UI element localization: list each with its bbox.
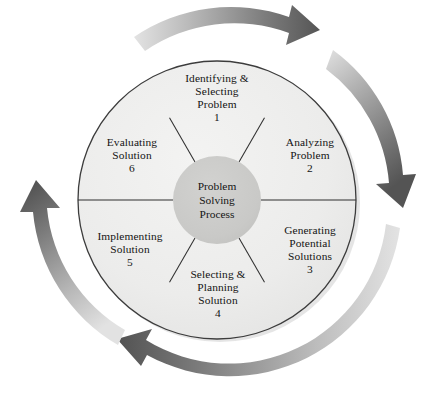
segment-number: 5 [84,256,176,269]
segment-line: Problem [166,98,268,111]
segment-line: Problem [268,149,352,162]
hub-line: Solving [175,194,259,208]
hub-line: Problem [175,180,259,194]
segment-label-analyzing-problem: Analyzing Problem 2 [268,136,352,175]
segment-line: Solution [172,294,264,307]
segment-line: Evaluating [88,136,176,149]
segment-line: Identifying & [166,72,268,85]
segment-number: 4 [172,307,264,320]
segment-line: Planning [172,281,264,294]
segment-line: Analyzing [268,136,352,149]
segment-line: Generating [268,224,352,237]
problem-solving-cycle-diagram: Identifying & Selecting Problem 1 Analyz… [0,0,432,395]
segment-line: Solution [84,243,176,256]
segment-number: 1 [166,111,268,124]
segment-line: Solutions [268,250,352,263]
segment-label-identifying-selecting-problem: Identifying & Selecting Problem 1 [166,72,268,124]
segment-label-evaluating-solution: Evaluating Solution 6 [88,136,176,175]
segment-label-selecting-planning-solution: Selecting & Planning Solution 4 [172,268,264,320]
segment-line: Potential [268,237,352,250]
segment-line: Selecting & [172,268,264,281]
segment-label-implementing-solution: Implementing Solution 5 [84,230,176,269]
segment-label-generating-potential-solutions: Generating Potential Solutions 3 [268,224,352,276]
hub-label: Problem Solving Process [175,180,259,222]
segment-line: Implementing [84,230,176,243]
segment-number: 2 [268,162,352,175]
segment-number: 3 [268,263,352,276]
segment-number: 6 [88,162,176,175]
segment-line: Selecting [166,85,268,98]
hub-line: Process [175,208,259,222]
arrow-top [134,5,320,51]
segment-line: Solution [88,149,176,162]
